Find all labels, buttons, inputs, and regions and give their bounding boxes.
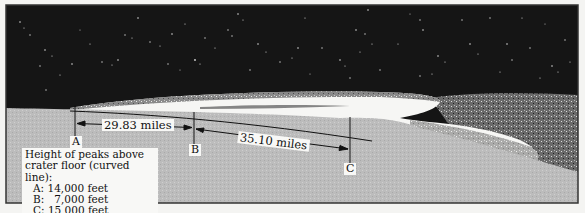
- marker-c-label: C: [344, 163, 356, 175]
- peak-height-legend: Height of peaks above crater floor (curv…: [22, 148, 158, 213]
- marker-a-label: A: [70, 136, 82, 148]
- marker-b-label: B: [189, 144, 201, 156]
- distance-label-a-b: 29.83 miles: [102, 119, 174, 131]
- legend-title-line-2: crater floor (curved line):: [25, 160, 155, 183]
- legend-row-c: C: 15,000 feet: [25, 205, 155, 213]
